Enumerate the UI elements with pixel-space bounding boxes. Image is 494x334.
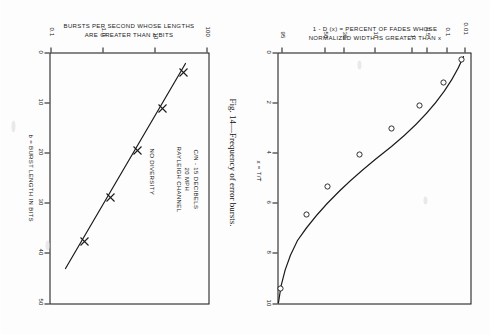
ytick-fade-4 — [374, 47, 375, 52]
chart-burst-frequency: 100 10 1.0 0.1 0 10 20 30 40 50 b = BURS… — [0, 0, 217, 334]
scan-speck — [423, 196, 427, 204]
yaxis-title-fade-line2: NORMALIZED WIDTH IS GREATER THAN x — [250, 33, 494, 42]
scan-speck — [11, 120, 15, 132]
xtick-label-fade-4: 8 — [265, 250, 271, 254]
chart-fade-width-distribution: 0.01 0.1 0.5 1 10 30 50 95 0 2 4 6 8 10 … — [251, 0, 483, 334]
annotation-conditions-line1: C/N - 15 DECIBELS — [191, 146, 200, 212]
xtick-label-fade-2: 4 — [265, 150, 271, 154]
xtick-label-fade-5: 10 — [265, 299, 271, 306]
xtick-label-fade-3: 6 — [265, 200, 271, 204]
ytick-fade-7 — [281, 47, 282, 52]
annotation-conditions-line3: RAYLEIGH CHANNEL — [174, 146, 183, 212]
yaxis-title-burst-line2: ARE GREATER THAN b BITS — [4, 30, 254, 39]
yaxis-title-burst: BURSTS PER SECOND WHOSE LENGTHS ARE GREA… — [4, 22, 254, 39]
ytick-burst-1 — [154, 47, 155, 52]
yaxis-title-burst-line1: BURSTS PER SECOND WHOSE LENGTHS — [4, 22, 254, 31]
xtick-label-burst-2: 20 — [37, 148, 43, 155]
xtick-burst-0 — [44, 52, 49, 53]
annotation-conditions-line2: 20 MPH — [182, 146, 191, 212]
xaxis-title-burst: b = BURST LENGTH IN BITS — [27, 134, 33, 221]
xtick-fade-3 — [272, 202, 277, 203]
ytick-fade-2 — [426, 47, 427, 52]
xaxis-title-fade: x = T/T̅ — [255, 160, 261, 181]
xtick-burst-5 — [44, 303, 49, 304]
xtick-label-burst-1: 10 — [37, 98, 43, 105]
xtick-fade-1 — [272, 102, 277, 103]
xtick-label-burst-4: 40 — [37, 248, 43, 255]
xtick-label-burst-5: 50 — [37, 298, 43, 305]
xtick-fade-4 — [272, 252, 277, 253]
xtick-burst-2 — [44, 152, 49, 153]
ytick-fade-0 — [464, 47, 465, 52]
ytick-burst-0 — [206, 47, 207, 52]
ytick-fade-3 — [411, 47, 412, 52]
xtick-burst-4 — [44, 252, 49, 253]
xtick-label-burst-0: 0 — [37, 50, 43, 54]
plot-curve-fade — [251, 0, 483, 334]
annotation-no-diversity: NO DIVERSITY — [147, 148, 156, 195]
xtick-fade-2 — [272, 152, 277, 153]
xtick-fade-5 — [272, 303, 277, 304]
xtick-burst-3 — [44, 202, 49, 203]
ytick-fade-5 — [343, 47, 344, 52]
xtick-label-fade-1: 2 — [265, 100, 271, 104]
ytick-fade-6 — [324, 47, 325, 52]
ytick-burst-2 — [102, 47, 103, 52]
ytick-burst-3 — [50, 47, 51, 52]
xtick-burst-1 — [44, 102, 49, 103]
figure-caption: Fig. 14—Frequency of error bursts. — [227, 98, 237, 226]
ytick-fade-1 — [446, 47, 447, 52]
xtick-label-fade-0: 0 — [265, 50, 271, 54]
scan-speck — [357, 60, 361, 69]
yaxis-title-fade: 1 - D (x) = PERCENT OF FADES WHOSE NORMA… — [250, 25, 494, 42]
yaxis-title-fade-line1: 1 - D (x) = PERCENT OF FADES WHOSE — [250, 25, 494, 34]
annotation-conditions: C/N - 15 DECIBELS 20 MPH RAYLEIGH CHANNE… — [174, 146, 200, 212]
scan-speck — [45, 240, 49, 250]
xtick-fade-0 — [272, 52, 277, 53]
xtick-label-burst-3: 30 — [37, 198, 43, 205]
